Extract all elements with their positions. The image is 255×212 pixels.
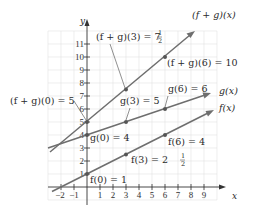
svg-text:5: 5: [150, 190, 155, 200]
svg-text:11: 11: [75, 39, 84, 49]
svg-text:8: 8: [189, 190, 194, 200]
svg-text:6: 6: [163, 190, 168, 200]
svg-text:−2: −2: [55, 190, 65, 200]
label-fg3-frac-den: 2: [158, 37, 162, 45]
y-axis-arrow-icon: [85, 19, 90, 26]
svg-text:−1: −1: [69, 190, 79, 200]
svg-text:2: 2: [80, 156, 85, 166]
x-axis-label: x: [232, 191, 237, 201]
point-fg0: [85, 120, 89, 124]
point-f0: [85, 172, 89, 176]
function-lines: [48, 31, 214, 192]
svg-text:4: 4: [137, 190, 142, 200]
label-f-curve: f(x): [218, 102, 236, 113]
svg-text:4: 4: [80, 130, 85, 140]
point-g3: [124, 120, 128, 124]
svg-text:1: 1: [98, 190, 103, 200]
svg-text:7: 7: [80, 91, 85, 101]
label-g3: g(3) = 5: [120, 95, 160, 106]
point-f6: [163, 133, 167, 137]
x-tick-labels: −2 −1 1 2 3 4 5 6 7 8 9: [55, 190, 207, 200]
svg-text:2: 2: [111, 190, 116, 200]
f-arrow-icon: [206, 110, 215, 117]
label-fg-curve: (f + g)(x): [192, 9, 236, 20]
svg-text:10: 10: [75, 52, 85, 62]
svg-text:6: 6: [80, 104, 85, 114]
label-g6: g(6) = 6: [168, 83, 208, 94]
label-f3: f(3) = 2: [131, 154, 168, 165]
svg-text:3: 3: [80, 143, 85, 153]
svg-text:9: 9: [202, 190, 207, 200]
label-g0: g(0) = 4: [90, 132, 130, 143]
x-axis-arrow-icon: [219, 185, 226, 190]
label-f0: f(0) = 1: [90, 174, 127, 185]
label-f3-frac-den: 2: [181, 160, 185, 168]
label-fg0: (f + g)(0) = 5: [10, 95, 75, 106]
label-fg6: (f + g)(6) = 10: [167, 57, 238, 68]
function-sum-graph: −2 −1 1 2 3 4 5 6 7 8 9 1 2 3 4 5 6 7 8 …: [0, 0, 255, 212]
svg-text:9: 9: [80, 65, 85, 75]
label-f3-frac-num: 1: [181, 152, 185, 160]
point-g6: [163, 107, 167, 111]
svg-text:3: 3: [124, 190, 129, 200]
label-fg3: (f + g)(3) = 7: [96, 31, 161, 42]
svg-text:8: 8: [80, 78, 85, 88]
svg-text:7: 7: [176, 190, 181, 200]
label-fg3-frac-num: 1: [158, 29, 162, 37]
y-axis-label: y: [79, 16, 86, 26]
point-g0: [85, 133, 89, 137]
label-f6: f(6) = 4: [168, 136, 205, 147]
point-f3: [124, 153, 128, 157]
label-g-curve: g(x): [219, 85, 238, 96]
point-fg3: [124, 88, 128, 92]
